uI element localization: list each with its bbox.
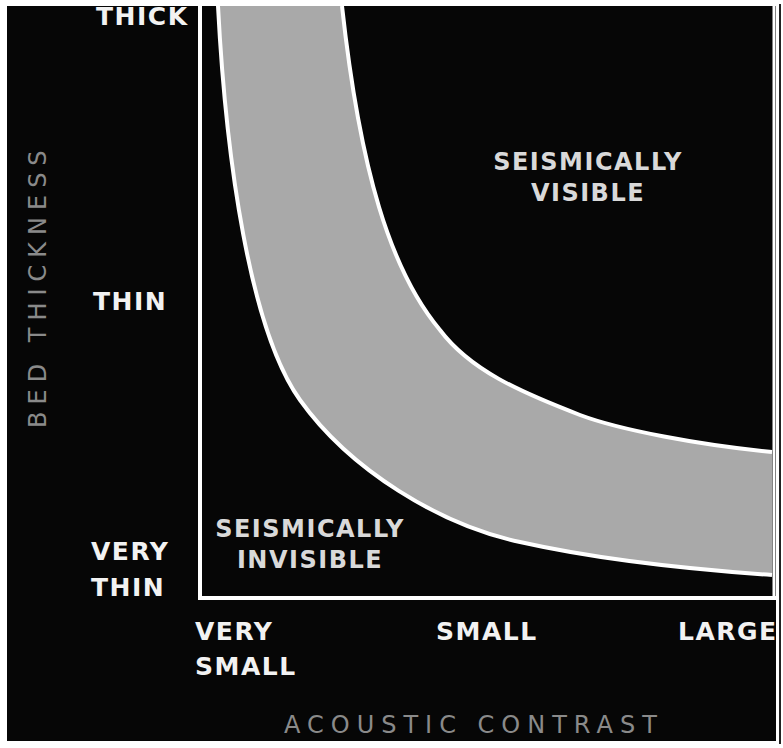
region-label-invisible-line1: SEISMICALLY <box>200 514 420 545</box>
region-label-invisible: SEISMICALLY INVISIBLE <box>200 514 420 576</box>
region-label-visible: SEISMICALLY VISIBLE <box>478 147 698 209</box>
x-tick-large: LARGE <box>678 617 778 647</box>
y-tick-very-thin-line1: VERY <box>91 537 169 567</box>
y-tick-thin: THIN <box>93 287 167 317</box>
transition-band <box>218 6 772 575</box>
y-axis-title: BED THICKNESS <box>24 143 52 428</box>
region-label-visible-line1: SEISMICALLY <box>478 147 698 178</box>
x-tick-very-small-line2: SMALL <box>195 652 297 682</box>
y-tick-very-thin-line2: THIN <box>91 573 165 603</box>
x-tick-small: SMALL <box>436 617 538 647</box>
x-tick-very-small-line1: VERY <box>195 617 273 647</box>
y-tick-thick: THICK <box>96 2 189 32</box>
x-axis-title: ACOUSTIC CONTRAST <box>284 711 664 739</box>
plot-area <box>0 0 783 748</box>
region-label-invisible-line2: INVISIBLE <box>200 545 420 576</box>
region-label-visible-line2: VISIBLE <box>478 178 698 209</box>
